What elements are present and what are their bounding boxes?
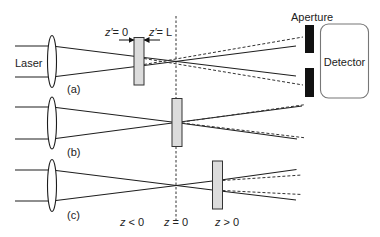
z-zero-label: z = 0 — [163, 216, 188, 228]
z-prime-0-label: z′= 0 — [104, 26, 128, 38]
converging-beam-top — [52, 170, 213, 190]
panel-b: (b) — [15, 97, 304, 158]
panel-a: Laser (a) z′= 0 z′= L Aperture Detector — [15, 11, 369, 98]
converging-beam-top — [52, 107, 176, 123]
z-negative-rest: < 0 — [126, 216, 145, 228]
converging-beam-bottom — [52, 181, 213, 201]
linear-beam-top — [144, 46, 296, 66]
detector-label: Detector — [324, 56, 366, 68]
z-prime-L-label: z′= L — [148, 26, 172, 38]
linear-beam-bottom — [144, 58, 296, 77]
panel-a-label: (a) — [67, 83, 80, 95]
z-positive-rest: > 0 — [221, 216, 240, 228]
sample — [134, 38, 144, 86]
z-positive-label: z > 0 — [214, 216, 239, 228]
sample — [172, 99, 182, 147]
lens — [48, 160, 57, 212]
aperture-top-blade — [305, 25, 314, 53]
sample — [213, 161, 223, 209]
laser-label: Laser — [15, 57, 43, 69]
panel-b-label: (b) — [67, 146, 80, 158]
z-zero-rest: = 0 — [170, 216, 189, 228]
lens — [48, 36, 57, 88]
nonlinear-beam-bottom — [182, 123, 304, 138]
lens — [48, 97, 57, 149]
panel-c-label: (c) — [67, 209, 80, 221]
aperture-label: Aperture — [291, 11, 333, 23]
converging-beam-bottom — [52, 67, 134, 77]
linear-beam-bottom — [176, 123, 297, 140]
aperture-bottom-blade — [305, 68, 314, 97]
z-negative-label: z < 0 — [119, 216, 144, 228]
panel-c: (c) — [15, 160, 302, 222]
z-prime-L-rest: = L — [157, 26, 173, 38]
z-scan-diagram: Laser (a) z′= 0 z′= L Aperture Detector … — [0, 0, 380, 237]
converging-beam-bottom — [52, 123, 176, 140]
converging-beam-top — [52, 46, 134, 56]
z-prime-0-rest: = 0 — [113, 26, 129, 38]
